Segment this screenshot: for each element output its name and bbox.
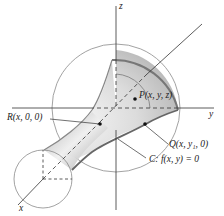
surface-of-revolution-diagram	[0, 0, 224, 216]
q-leader	[145, 125, 168, 144]
label-q: Q(x, y₁, 0)	[169, 140, 208, 150]
x-axis	[18, 179, 43, 205]
label-r: R(x, 0, 0)	[7, 113, 42, 123]
point-r	[98, 122, 102, 126]
axes	[12, 6, 214, 210]
c-leader	[118, 139, 146, 158]
y-axis-label: y	[209, 110, 213, 120]
surface	[44, 50, 178, 170]
point-p	[133, 97, 137, 101]
z-axis-label: z	[119, 2, 123, 12]
label-p: P(x, y, z)	[139, 91, 172, 101]
point-q	[143, 122, 147, 126]
label-curve-c: C: f(x, y) = 0	[149, 155, 199, 165]
x-axis-label: x	[19, 204, 23, 214]
